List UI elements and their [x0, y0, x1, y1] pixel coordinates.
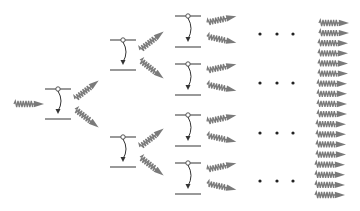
output-photon-10-icon — [317, 111, 347, 117]
stage-1-atom-1-electron-icon — [56, 87, 60, 91]
output-photon-14-icon — [316, 151, 346, 157]
ellipsis-3-dot-3 — [291, 131, 294, 134]
stage-2-atom-2-electron-icon — [121, 135, 125, 139]
stage-3-atom-4-photon-down-icon — [206, 180, 237, 192]
output-photon-7-icon — [317, 81, 347, 87]
ellipsis-1-dot-1 — [258, 32, 261, 35]
stage-2-atom-2-transition-arrow — [123, 139, 126, 159]
output-photon-11-icon — [316, 121, 346, 127]
incoming-photon-icon — [14, 101, 44, 107]
ellipsis-2-dot-1 — [258, 81, 261, 84]
stage-3-atom-4-electron-icon — [186, 161, 190, 165]
stage-3-atom-1-arrow-head-icon — [186, 37, 191, 42]
stage-3-atom-4-photon-up-icon — [206, 160, 237, 172]
stage-3-atom-2-electron-icon — [186, 62, 190, 66]
stage-1-atom-1-photon-up-icon — [73, 78, 101, 102]
stage-2-atom-2-photon-down-icon — [138, 154, 166, 178]
diagram-canvas — [0, 0, 360, 211]
stage-2-atom-1-arrow-head-icon — [121, 60, 126, 65]
output-photon-12-icon — [316, 131, 346, 137]
output-photon-4-icon — [318, 50, 348, 56]
stage-3-atom-1-photon-down-icon — [206, 33, 237, 45]
ellipsis-3-dot-2 — [275, 131, 278, 134]
stage-3-atom-3-transition-arrow — [188, 117, 191, 138]
stage-3-atom-2-photon-down-icon — [206, 81, 237, 93]
output-photon-15-icon — [315, 161, 345, 167]
output-photon-17-icon — [315, 182, 345, 188]
stage-3-atom-3-electron-icon — [186, 113, 190, 117]
photon-cascade-diagram — [0, 0, 360, 211]
stage-2-atom-2-arrow-head-icon — [121, 157, 126, 162]
output-photon-1-icon — [319, 20, 349, 26]
stage-3-atom-2-transition-arrow — [188, 66, 191, 87]
stage-3-atom-3-photon-up-icon — [206, 112, 237, 124]
output-photon-13-icon — [316, 141, 346, 147]
output-photon-6-icon — [318, 70, 348, 76]
stage-2-atom-1-photon-up-icon — [138, 29, 166, 53]
output-photon-18-icon — [315, 192, 345, 198]
stage-3-atom-2-arrow-head-icon — [186, 85, 191, 90]
ellipsis-2-dot-2 — [275, 81, 278, 84]
ellipsis-4-dot-3 — [291, 179, 294, 182]
ellipsis-4-dot-1 — [258, 179, 261, 182]
stage-3-atom-1-photon-up-icon — [206, 13, 237, 25]
output-photon-2-icon — [319, 30, 349, 36]
stage-3-atom-3-arrow-head-icon — [186, 136, 191, 141]
output-photon-5-icon — [318, 60, 348, 66]
ellipsis-2-dot-3 — [291, 81, 294, 84]
stage-2-atom-1-photon-down-icon — [138, 57, 166, 81]
stage-3-atom-1-electron-icon — [186, 14, 190, 18]
ellipsis-1-dot-2 — [275, 32, 278, 35]
stage-1-atom-1-photon-down-icon — [73, 106, 101, 130]
stage-3-atom-3-photon-down-icon — [206, 132, 237, 144]
stage-3-atom-4-arrow-head-icon — [186, 184, 191, 189]
stage-1-atom-1-transition-arrow — [58, 91, 61, 111]
stage-3-atom-1-transition-arrow — [188, 18, 191, 39]
stage-2-atom-1-transition-arrow — [123, 42, 126, 62]
ellipsis-4-dot-2 — [275, 179, 278, 182]
output-photon-8-icon — [317, 91, 347, 97]
stage-2-atom-1-electron-icon — [121, 38, 125, 42]
stage-3-atom-4-transition-arrow — [188, 165, 191, 186]
output-photon-3-icon — [318, 40, 348, 46]
stage-1-atom-1-arrow-head-icon — [56, 109, 61, 114]
ellipsis-1-dot-3 — [291, 32, 294, 35]
output-photon-9-icon — [317, 101, 347, 107]
stage-2-atom-2-photon-up-icon — [138, 126, 166, 150]
output-photon-16-icon — [315, 172, 345, 178]
ellipsis-3-dot-1 — [258, 131, 261, 134]
stage-3-atom-2-photon-up-icon — [206, 61, 237, 73]
